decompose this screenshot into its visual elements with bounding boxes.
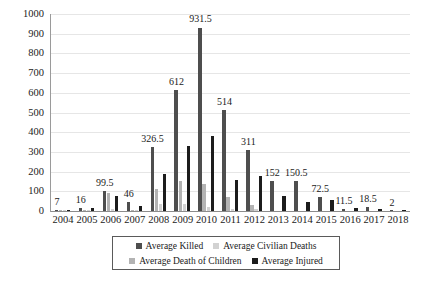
data-labels: 71699.546326.5612931.5514311152150.572.5… <box>51 0 410 214</box>
y-axis-tick-label: 900 <box>28 29 44 40</box>
data-label-2018: 2 <box>376 198 408 208</box>
legend-label: Average Killed <box>146 241 204 251</box>
legend-swatch-icon <box>252 258 258 264</box>
y-axis-tick-label: 200 <box>28 167 44 178</box>
y-axis-tick-label: 100 <box>28 186 44 197</box>
bar-chart: 01002003004005006007008009001000 71699.5… <box>0 0 428 285</box>
y-axis-tick-label: 500 <box>28 108 44 119</box>
data-label-2005: 16 <box>65 195 97 205</box>
legend-swatch-icon <box>136 243 142 249</box>
legend-item-average-civilian-deaths[interactable]: Average Civilian Deaths <box>213 241 316 251</box>
legend-item-average-injured[interactable]: Average Injured <box>252 256 323 266</box>
legend-item-average-killed[interactable]: Average Killed <box>136 241 204 251</box>
y-axis-tick-label: 800 <box>28 48 44 59</box>
legend-item-average-death-of-children[interactable]: Average Death of Children <box>129 256 241 266</box>
x-axis-tick-label: 2018 <box>384 214 412 226</box>
caption-sliver <box>18 276 410 284</box>
y-axis-tick-label: 1000 <box>23 9 44 20</box>
y-axis-tick-label: 600 <box>28 88 44 99</box>
legend-label: Average Civilian Deaths <box>223 241 316 251</box>
data-label-2008: 326.5 <box>137 134 169 144</box>
data-label-2015: 72.5 <box>304 184 336 194</box>
data-label-2014: 150.5 <box>280 168 312 178</box>
data-label-2011: 514 <box>208 97 240 107</box>
legend-row-top: Average Killed Average Civilian Deaths <box>113 238 339 254</box>
data-label-2007: 46 <box>113 189 145 199</box>
legend-swatch-icon <box>129 258 135 264</box>
legend-label: Average Death of Children <box>139 256 241 266</box>
y-axis-tick-label: 400 <box>28 127 44 138</box>
data-label-2012: 311 <box>232 137 264 147</box>
x-axis-labels: 2004200520062007200820092010201120122013… <box>51 214 410 230</box>
data-label-2009: 612 <box>161 77 193 87</box>
y-axis-tick-label: 300 <box>28 147 44 158</box>
y-axis-tick-label: 0 <box>39 206 44 217</box>
y-axis-labels: 01002003004005006007008009001000 <box>0 0 48 285</box>
legend-label: Average Injured <box>262 256 323 266</box>
data-label-2010: 931.5 <box>184 14 216 24</box>
legend-swatch-icon <box>213 243 219 249</box>
legend-row-bottom: Average Death of Children Average Injure… <box>113 253 339 269</box>
chart-legend: Average Killed Average Civilian Deaths A… <box>112 236 340 270</box>
data-label-2006: 99.5 <box>89 178 121 188</box>
y-axis-tick-label: 700 <box>28 68 44 79</box>
